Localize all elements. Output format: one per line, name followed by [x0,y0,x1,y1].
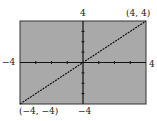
y-max-label: 4 [80,9,86,18]
plot [0,0,157,121]
x-max-label: 4 [149,60,155,69]
point-label-top-right: (4, 4) [126,9,150,18]
x-min-label: −4 [2,58,15,67]
point-label-bottom-left: (−4, −4) [19,107,58,116]
y-min-label: −4 [78,107,91,116]
